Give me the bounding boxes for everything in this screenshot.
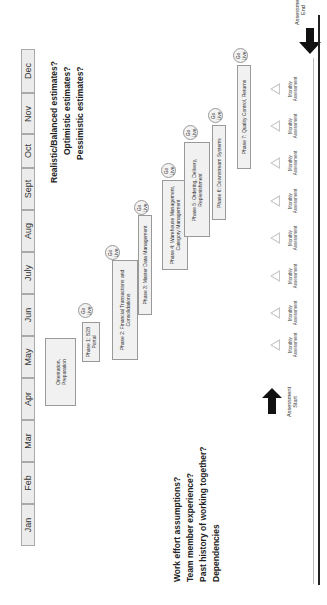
- phase-6-box: Phase 6: Downstream Systems: [212, 125, 226, 220]
- month-jan: Jan: [21, 504, 35, 546]
- month-dec: Dec: [21, 49, 35, 93]
- month-jun: Jun: [21, 294, 35, 336]
- go-live-phase-2: Go Live: [105, 245, 120, 260]
- monthly-assessment-label: Monthly Assessment: [288, 114, 298, 139]
- triangle-icon: [270, 157, 280, 169]
- month-mar: Mar: [21, 420, 35, 462]
- phase-orientation: Orientation, Preparation: [45, 338, 76, 406]
- phase-label: Orientation, Preparation: [55, 359, 67, 385]
- divider-thick: [318, 15, 320, 585]
- month-label: May: [23, 348, 33, 365]
- phase-1-box: Phase 1: B2B Portal: [82, 322, 100, 362]
- triangle-icon: [270, 195, 280, 207]
- assessment-start-label: Assessment Start: [286, 387, 298, 417]
- phase-3-box: Phase 3: Master Data Management: [138, 215, 152, 315]
- go-live-label: Go Live: [185, 128, 196, 137]
- go-live-phase-7: Go Live: [233, 48, 248, 63]
- phase-label: Phase 1: B2B Portal: [85, 327, 97, 358]
- divider-thin: [313, 58, 314, 584]
- go-live-label: Go Live: [136, 203, 147, 212]
- phase-label: Phase 5: Ordering, Delivery, Replenishme…: [191, 158, 203, 220]
- phase-label: Phase 7: Quality Control, Returns: [241, 80, 247, 154]
- month-label: Nov: [23, 105, 33, 121]
- month-label: Oct: [23, 144, 33, 158]
- monthly-assessment-label: Monthly Assessment: [288, 77, 298, 102]
- month-feb: Feb: [21, 462, 35, 504]
- go-live-phase-6: Go Live: [208, 108, 223, 123]
- monthly-assessment-label: Monthly Assessment: [288, 264, 298, 289]
- go-live-phase-4: Go Live: [161, 163, 176, 178]
- question-team-experience: Team member experience?: [185, 473, 195, 582]
- phase-label: Phase 2: Financial Transactions and Cons…: [119, 270, 131, 351]
- question-past-history: Past history of working together?: [198, 446, 208, 582]
- month-nov: Nov: [21, 93, 35, 134]
- go-live-label: Go Live: [235, 51, 246, 60]
- month-oct: Oct: [21, 134, 35, 168]
- month-label: Apr: [23, 392, 33, 406]
- phase-5-box: Phase 5: Ordering, Delivery, Replenishme…: [184, 142, 210, 237]
- question-dependencies: Dependencies: [211, 524, 221, 582]
- question-pessimistic: Pessimistic estimates?: [75, 66, 85, 160]
- question-realistic: Realistic/Balanced estimates?: [49, 61, 59, 183]
- month-label: Jan: [23, 518, 33, 533]
- monthly-assessment-label: Monthly Assessment: [288, 333, 298, 358]
- go-live-phase-3: Go Live: [134, 200, 149, 215]
- triangle-icon: [270, 270, 280, 282]
- question-optimistic: Optimistic estimates?: [62, 67, 72, 155]
- arrow-up-icon: [262, 388, 282, 414]
- phase-label: Phase 6: Downstream Systems: [216, 138, 222, 208]
- month-label: July: [23, 265, 33, 281]
- triangle-icon: [270, 232, 280, 244]
- go-live-label: Go Live: [80, 306, 91, 315]
- month-sept: Sept: [21, 168, 35, 210]
- month-label: Feb: [23, 475, 33, 491]
- go-live-phase-1: Go Live: [78, 303, 93, 318]
- triangle-icon: [270, 339, 280, 351]
- triangle-icon: [270, 83, 280, 95]
- triangle-icon: [270, 307, 280, 319]
- month-label: Aug: [23, 223, 33, 239]
- monthly-assessment-label: Monthly Assessment: [288, 226, 298, 251]
- month-apr: Apr: [21, 378, 35, 420]
- month-label: Sept: [23, 180, 33, 199]
- triangle-icon: [270, 120, 280, 132]
- phase-label: Phase 4: Warehouse Management, Category …: [169, 186, 181, 264]
- go-live-label: Go Live: [163, 166, 174, 175]
- go-live-label: Go Live: [210, 111, 221, 120]
- phase-7-box: Phase 7: Quality Control, Returns: [237, 65, 251, 169]
- month-label: Mar: [23, 433, 33, 449]
- go-live-label: Go Live: [107, 248, 118, 257]
- phase-2-box: Phase 2: Financial Transactions and Cons…: [112, 260, 138, 360]
- go-live-phase-5: Go Live: [183, 125, 198, 140]
- month-label: Jun: [23, 308, 33, 323]
- month-aug: Aug: [21, 210, 35, 252]
- monthly-assessment-label: Monthly Assessment: [288, 189, 298, 214]
- month-may: May: [21, 336, 35, 378]
- question-work-effort: Work effort assumptions?: [172, 477, 182, 582]
- monthly-assessment-label: Monthly Assessment: [288, 301, 298, 326]
- month-july: July: [21, 252, 35, 294]
- assessment-end-label: Assessment End: [294, 0, 306, 25]
- monthly-assessment-label: Monthly Assessment: [288, 151, 298, 176]
- phase-label: Phase 3: Master Data Management: [142, 226, 148, 305]
- month-label: Dec: [23, 63, 33, 79]
